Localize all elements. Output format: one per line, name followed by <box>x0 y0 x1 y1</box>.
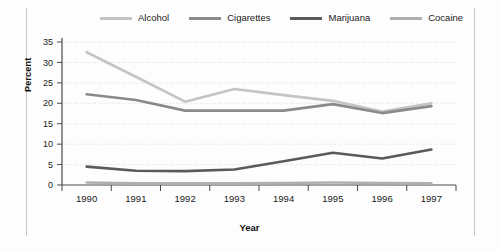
legend-swatch-marijuana <box>290 17 322 20</box>
x-tick-label-1995: 1995 <box>322 193 343 204</box>
legend-label-cigarettes: Cigarettes <box>227 13 270 23</box>
y-tick-label-0: 0 <box>48 180 53 190</box>
legend-label-cocaine: Cocaine <box>428 13 463 23</box>
y-tick-label-35: 35 <box>43 37 53 47</box>
x-tick-label-1996: 1996 <box>372 193 393 204</box>
x-tick-label-1992: 1992 <box>175 193 196 204</box>
x-axis-label: Year <box>0 222 499 233</box>
legend-swatch-alcohol <box>100 17 132 20</box>
plot-area: 0510152025303519901991199219931994199519… <box>0 30 499 215</box>
line-chart-svg: 0510152025303519901991199219931994199519… <box>0 30 499 215</box>
y-tick-label-15: 15 <box>43 119 53 129</box>
x-tick-label-1991: 1991 <box>125 193 146 204</box>
legend-item-alcohol[interactable]: Alcohol <box>100 13 169 23</box>
x-tick-label-1990: 1990 <box>76 193 97 204</box>
legend-label-alcohol: Alcohol <box>138 13 169 23</box>
x-tick-label-1997: 1997 <box>421 193 442 204</box>
y-tick-label-25: 25 <box>43 78 53 88</box>
legend-swatch-cigarettes <box>189 17 221 20</box>
legend-item-cigarettes[interactable]: Cigarettes <box>189 13 270 23</box>
series-line-cocaine <box>87 183 432 184</box>
legend-swatch-cocaine <box>390 17 422 20</box>
legend-label-marijuana: Marijuana <box>328 13 370 23</box>
y-tick-label-5: 5 <box>48 160 53 170</box>
y-tick-label-20: 20 <box>43 98 53 108</box>
chart-container: AlcoholCigarettesMarijuanaCocaine 051015… <box>0 0 499 251</box>
x-tick-label-1994: 1994 <box>273 193 294 204</box>
legend-item-cocaine[interactable]: Cocaine <box>390 13 463 23</box>
y-axis-label: Percent <box>23 58 33 92</box>
series-line-marijuana <box>87 149 432 171</box>
x-tick-label-1993: 1993 <box>224 193 245 204</box>
chart-legend: AlcoholCigarettesMarijuanaCocaine <box>100 11 463 25</box>
legend-item-marijuana[interactable]: Marijuana <box>290 13 370 23</box>
y-tick-label-10: 10 <box>43 139 53 149</box>
y-tick-label-30: 30 <box>43 58 53 68</box>
series-line-alcohol <box>87 52 432 111</box>
